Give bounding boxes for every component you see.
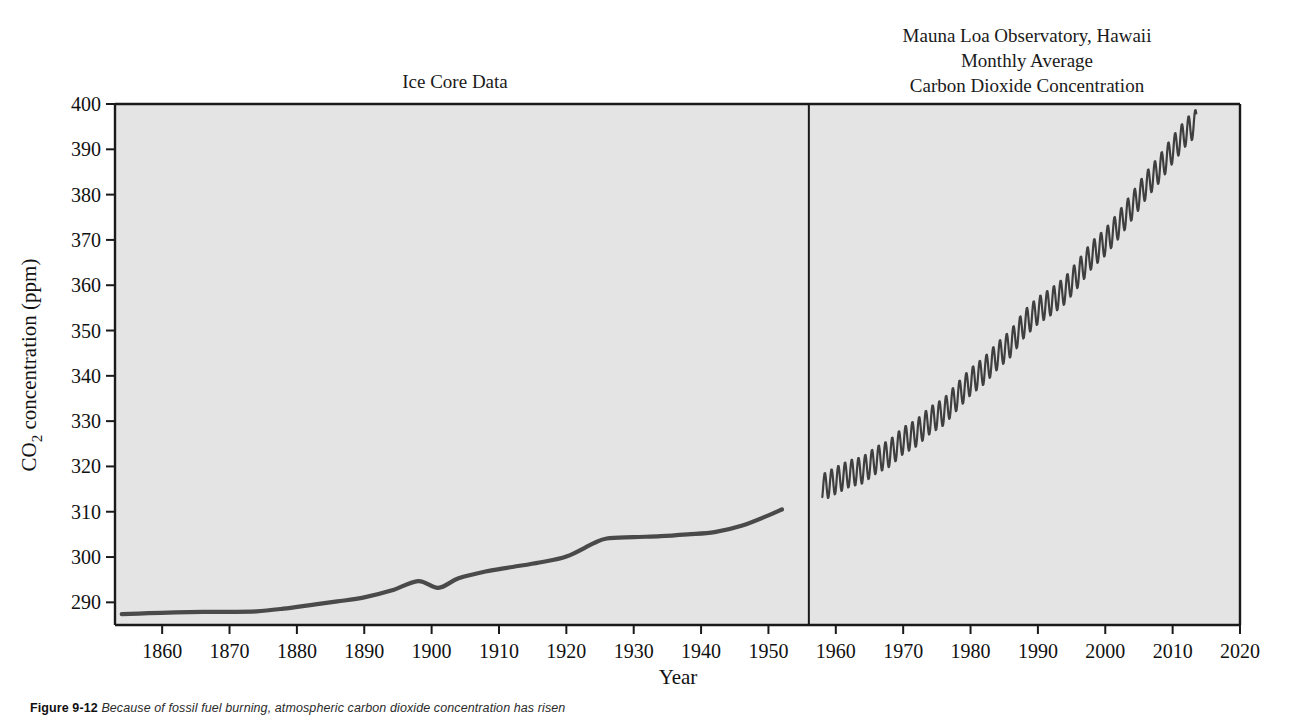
y-tick-label: 360 xyxy=(71,274,101,296)
x-tick-label: 1950 xyxy=(748,640,788,662)
figure-caption-text: Because of fossil fuel burning, atmosphe… xyxy=(101,701,565,715)
figure-caption: Figure 9-12 Because of fossil fuel burni… xyxy=(30,701,1270,715)
x-axis-ticks xyxy=(162,625,1240,634)
y-axis-label: CO2 concentration (ppm) xyxy=(17,259,45,472)
x-tick-label: 1960 xyxy=(816,640,856,662)
y-tick-label: 290 xyxy=(71,591,101,613)
y-axis-ticks xyxy=(106,104,115,602)
y-tick-label: 340 xyxy=(71,365,101,387)
y-axis-label-subscript: 2 xyxy=(29,435,45,443)
y-tick-label: 320 xyxy=(71,455,101,477)
y-axis-label-suffix: concentration (ppm) xyxy=(17,259,41,435)
y-tick-label: 300 xyxy=(71,546,101,568)
y-tick-label: 390 xyxy=(71,138,101,160)
y-tick-label: 380 xyxy=(71,184,101,206)
co2-concentration-chart: 290300310320330340350360370380390400 186… xyxy=(0,0,1291,718)
x-axis-label: Year xyxy=(659,665,698,689)
x-tick-label: 1910 xyxy=(479,640,519,662)
y-tick-label: 350 xyxy=(71,320,101,342)
x-tick-label: 1880 xyxy=(277,640,317,662)
figure-container: 290300310320330340350360370380390400 186… xyxy=(0,0,1291,718)
figure-caption-label: Figure 9-12 xyxy=(30,701,98,715)
x-tick-label: 1870 xyxy=(210,640,250,662)
x-tick-label: 1920 xyxy=(546,640,586,662)
x-tick-label: 1990 xyxy=(1018,640,1058,662)
x-axis-tick-labels: 1860187018801890190019101920193019401950… xyxy=(142,640,1260,662)
x-tick-label: 1900 xyxy=(412,640,452,662)
y-tick-label: 330 xyxy=(71,410,101,432)
y-tick-label: 310 xyxy=(71,501,101,523)
x-tick-label: 1970 xyxy=(883,640,923,662)
plot-area-background xyxy=(115,104,1240,625)
y-tick-label: 400 xyxy=(71,93,101,115)
x-tick-label: 1890 xyxy=(344,640,384,662)
x-tick-label: 1940 xyxy=(681,640,721,662)
x-tick-label: 1980 xyxy=(951,640,991,662)
y-axis-tick-labels: 290300310320330340350360370380390400 xyxy=(71,93,101,613)
y-tick-label: 370 xyxy=(71,229,101,251)
y-axis-label-prefix: CO xyxy=(17,442,41,471)
x-tick-label: 2020 xyxy=(1220,640,1260,662)
right-panel-title-line3: Carbon Dioxide Concentration xyxy=(910,75,1145,96)
right-panel-title-line1: Mauna Loa Observatory, Hawaii xyxy=(903,25,1152,46)
x-tick-label: 1860 xyxy=(142,640,182,662)
x-tick-label: 2000 xyxy=(1085,640,1125,662)
right-panel-title-line2: Monthly Average xyxy=(961,50,1093,71)
x-tick-label: 1930 xyxy=(614,640,654,662)
x-tick-label: 2010 xyxy=(1153,640,1193,662)
left-panel-title: Ice Core Data xyxy=(402,71,508,92)
